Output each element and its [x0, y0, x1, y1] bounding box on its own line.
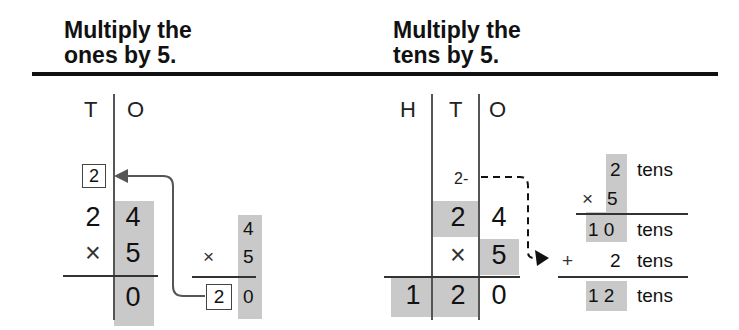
side-row2-sign: × [582, 188, 593, 210]
side-row2-num: 5 [607, 188, 618, 210]
side-row3-num: 1 0 [588, 219, 614, 241]
side-row4-sign: + [562, 250, 573, 272]
side-row3-unit: tens [637, 219, 673, 241]
side-row4-num: 2 [610, 250, 621, 272]
side-row1-unit: tens [637, 159, 673, 181]
side-row5-unit: tens [637, 285, 673, 307]
side-row4-unit: tens [637, 250, 673, 272]
side-line-1 [576, 213, 688, 215]
side-row1-num: 2 [610, 159, 621, 181]
side-row5-num: 1 2 [588, 285, 614, 307]
carry-dashed-arrow-icon [0, 0, 739, 330]
side-line-2 [558, 276, 688, 278]
